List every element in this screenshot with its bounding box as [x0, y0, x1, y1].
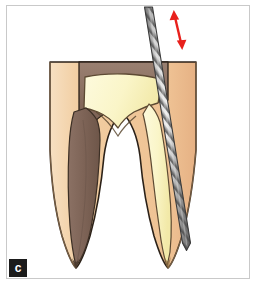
figure-panel: c [0, 0, 257, 286]
filing-motion-arrow [170, 10, 187, 50]
tooth-illustration [0, 0, 257, 286]
panel-label: c [9, 259, 27, 277]
arrow-head-down [177, 40, 187, 50]
tooth-drawing-group [50, 0, 220, 270]
arrow-head-up [170, 10, 180, 20]
